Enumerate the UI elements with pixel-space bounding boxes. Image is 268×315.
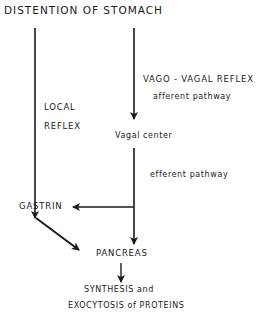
diagram-arrows: [0, 0, 268, 315]
edge-gastrin-to-pancreas: [36, 218, 79, 250]
node-output-line2: EXOCYTOSIS of PROTEINS: [68, 301, 184, 310]
label-local-line2: REFLEX: [44, 121, 81, 131]
label-efferent: efferent pathway: [150, 170, 228, 179]
node-stimulus: DISTENTION OF STOMACH: [4, 4, 163, 16]
label-vago-vagal: VAGO - VAGAL REFLEX: [143, 74, 254, 84]
label-afferent: afferent pathway: [153, 92, 231, 101]
node-output-line1: SYNTHESIS and: [84, 285, 154, 294]
label-local-line1: LOCAL: [44, 102, 76, 112]
node-gastrin: GASTRIN: [19, 201, 62, 211]
node-vagal-center: Vagal center: [115, 131, 172, 140]
node-pancreas: PANCREAS: [96, 248, 148, 258]
